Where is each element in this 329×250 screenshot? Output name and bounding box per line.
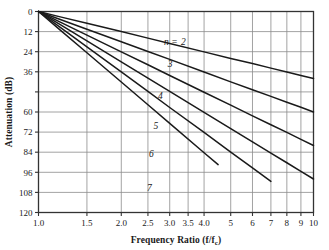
x-tick-label: 6 <box>250 218 255 228</box>
x-axis-title-main: Frequency Ratio (f/f <box>131 235 216 246</box>
x-tick-label: 8 <box>285 218 290 228</box>
x-tick-label: 2.0 <box>116 218 128 228</box>
x-tick-label: 1.5 <box>81 218 93 228</box>
y-tick-label: 84 <box>24 147 34 157</box>
x-tick-label: 2.5 <box>142 218 154 228</box>
x-tick-label: 3.0 <box>164 218 176 228</box>
y-tick-label: 24 <box>24 47 34 57</box>
y-tick-label: 12 <box>24 27 33 37</box>
y-tick-label: 60 <box>24 107 34 117</box>
attenuation-chart-figure: 1.01.52.02.53.03.54.05678910 01224366072… <box>0 0 329 250</box>
x-tick-label: 9 <box>299 218 304 228</box>
y-tick-label: 108 <box>19 188 33 198</box>
x-tick-label: 4.0 <box>198 218 210 228</box>
x-tick-label: 10 <box>309 218 319 228</box>
curve-label-3: 3 <box>167 59 173 69</box>
y-tick-label: 36 <box>24 67 34 77</box>
y-tick-label: 72 <box>24 127 33 137</box>
curve-label-6: 6 <box>149 149 154 159</box>
x-axis-title-close: ) <box>218 235 221 246</box>
x-tick-label: 1.0 <box>33 218 45 228</box>
y-tick-label: 0 <box>28 7 33 17</box>
x-tick-label: 3.5 <box>182 218 194 228</box>
chart-svg: 1.01.52.02.53.03.54.05678910 01224366072… <box>0 0 329 250</box>
y-tick-label: 96 <box>24 168 34 178</box>
x-tick-label: 7 <box>269 218 274 228</box>
y-tick-label: 120 <box>19 208 33 218</box>
curve-label-5: 5 <box>154 121 159 131</box>
curve-label-2: 2 <box>181 37 186 47</box>
n-equals-prefix: n = <box>164 37 178 47</box>
x-tick-label: 5 <box>228 218 233 228</box>
curve-label-4: 4 <box>158 91 163 101</box>
y-axis-title: Attenuation (dB) <box>4 77 15 147</box>
